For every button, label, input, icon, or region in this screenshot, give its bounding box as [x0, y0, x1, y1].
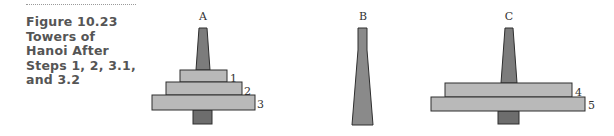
disk-5 — [431, 97, 585, 111]
disk-label-2: 2 — [244, 85, 251, 98]
peg-label-b: B — [359, 10, 367, 23]
disk-label-4: 4 — [575, 86, 582, 99]
peg-a: A 1 2 3 — [152, 10, 264, 124]
disk-label-1: 1 — [230, 72, 237, 85]
peg-base-icon — [498, 111, 519, 124]
peg-shaft-icon — [196, 28, 210, 70]
peg-base-icon — [193, 110, 212, 124]
disk-3 — [152, 95, 255, 110]
peg-b: B — [352, 10, 373, 125]
disk-1 — [180, 70, 227, 82]
peg-shaft-icon — [352, 28, 373, 125]
disk-label-5: 5 — [588, 99, 595, 112]
peg-label-c: C — [505, 10, 513, 23]
peg-shaft-icon — [501, 28, 517, 83]
peg-c: C 4 5 — [431, 10, 595, 124]
peg-label-a: A — [198, 10, 208, 23]
towers-diagram: A 1 2 3 B C 4 5 — [0, 0, 614, 136]
disk-4 — [445, 83, 572, 97]
disk-label-3: 3 — [257, 98, 264, 111]
